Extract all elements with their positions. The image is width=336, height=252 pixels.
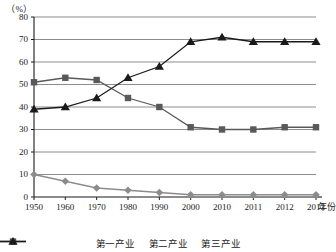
diamond-marker bbox=[62, 177, 70, 185]
square-marker bbox=[93, 77, 99, 83]
legend-label: 第二产业 bbox=[149, 236, 188, 250]
square-marker bbox=[313, 124, 319, 130]
diamond-marker bbox=[156, 189, 164, 197]
square-marker bbox=[125, 95, 131, 101]
x-axis-tick-label: 1980 bbox=[113, 203, 143, 212]
series-line bbox=[34, 37, 316, 109]
x-axis-tick-label: 1950 bbox=[19, 203, 49, 212]
y-axis-tick-label: 30 bbox=[6, 125, 28, 134]
square-marker bbox=[219, 126, 225, 132]
legend-item[interactable]: 第三产业 bbox=[201, 236, 240, 250]
diamond-marker bbox=[124, 186, 132, 194]
y-axis-tick-label: 70 bbox=[6, 35, 28, 44]
legend-item[interactable]: 第一产业 bbox=[96, 236, 135, 250]
x-axis-tick-label: 2012 bbox=[270, 203, 300, 212]
square-marker bbox=[156, 104, 162, 110]
square-marker bbox=[62, 75, 68, 81]
x-axis-tick-label: 2011 bbox=[238, 203, 268, 212]
square-marker bbox=[187, 124, 193, 130]
triangle-marker bbox=[92, 94, 101, 102]
legend-label: 第一产业 bbox=[96, 236, 135, 250]
square-marker bbox=[281, 124, 287, 130]
legend-label: 第三产业 bbox=[201, 236, 240, 250]
x-axis-title: 年份 bbox=[318, 203, 336, 212]
chart-plot-area bbox=[0, 0, 336, 252]
y-axis-tick-label: 10 bbox=[6, 170, 28, 179]
chart-legend: 第一产业第二产业第三产业 bbox=[0, 236, 336, 250]
y-axis-tick-label: 80 bbox=[6, 13, 28, 22]
diamond-marker bbox=[30, 171, 38, 179]
legend-item[interactable]: 第二产业 bbox=[149, 236, 188, 250]
x-axis-tick-label: 2000 bbox=[176, 203, 206, 212]
x-axis-tick-label: 2010 bbox=[207, 203, 237, 212]
x-axis-tick-label: 1990 bbox=[144, 203, 174, 212]
triangle-marker bbox=[217, 33, 226, 41]
y-axis-tick-label: 50 bbox=[6, 80, 28, 89]
y-axis-tick-label: 40 bbox=[6, 103, 28, 112]
diamond-marker bbox=[93, 184, 101, 192]
square-marker bbox=[31, 79, 37, 85]
y-axis-tick-label: 20 bbox=[6, 148, 28, 157]
triangle-marker bbox=[0, 236, 26, 247]
chart-container: （%） 80706050403020100 195019601970198019… bbox=[0, 0, 336, 252]
x-axis-tick-label: 1960 bbox=[50, 203, 80, 212]
x-axis-tick-label: 1970 bbox=[82, 203, 112, 212]
y-axis-tick-label: 60 bbox=[6, 58, 28, 67]
y-axis-tick-label: 0 bbox=[6, 193, 28, 202]
series-line bbox=[34, 175, 316, 195]
square-marker bbox=[250, 126, 256, 132]
